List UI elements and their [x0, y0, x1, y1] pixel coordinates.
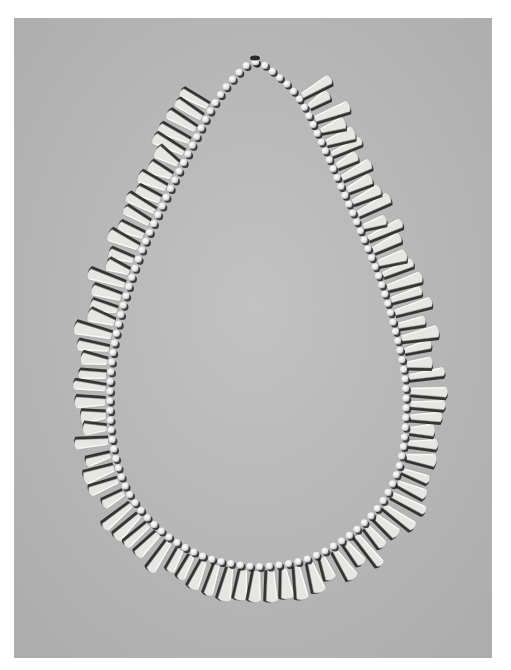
bead	[305, 112, 312, 119]
bead	[353, 218, 360, 225]
bead	[108, 426, 115, 433]
bead	[364, 245, 371, 252]
bead	[109, 436, 116, 443]
bead	[314, 130, 321, 137]
bead	[106, 407, 113, 414]
bead	[180, 159, 187, 166]
bead	[223, 83, 230, 90]
bead	[122, 292, 129, 299]
clasp-knot	[250, 56, 260, 61]
bead	[182, 544, 189, 551]
bead	[243, 62, 250, 69]
bead	[218, 558, 225, 565]
bead	[107, 368, 114, 375]
bead	[106, 397, 113, 404]
bead	[368, 254, 375, 261]
bead	[375, 272, 382, 279]
bead	[389, 480, 396, 487]
bead	[354, 526, 361, 533]
bead	[338, 537, 345, 544]
bead	[261, 62, 268, 69]
bead	[275, 561, 282, 568]
bead	[107, 417, 114, 424]
bead	[109, 349, 116, 356]
bead	[384, 300, 391, 307]
bead	[106, 388, 113, 395]
bead	[120, 302, 127, 309]
bead	[165, 534, 172, 541]
bead	[393, 471, 400, 478]
bead	[125, 283, 132, 290]
bead	[122, 483, 129, 490]
bead	[128, 274, 135, 281]
bead	[256, 563, 263, 570]
bead	[118, 474, 125, 481]
bead	[378, 281, 385, 288]
bead	[346, 532, 353, 539]
bead	[126, 491, 133, 498]
bead	[158, 528, 165, 535]
bead	[333, 174, 340, 181]
bead	[402, 395, 409, 402]
bead	[137, 507, 144, 514]
bead	[301, 104, 308, 111]
bead	[349, 210, 356, 217]
bead	[193, 133, 200, 140]
bead	[217, 91, 224, 98]
bead	[401, 434, 408, 441]
bead	[401, 375, 408, 382]
bead	[266, 563, 273, 570]
bead	[385, 489, 392, 496]
bead	[322, 147, 329, 154]
bead	[138, 247, 145, 254]
bead	[246, 563, 253, 570]
bead	[367, 512, 374, 519]
bead	[318, 139, 325, 146]
bead	[402, 404, 409, 411]
bead	[398, 356, 405, 363]
bead	[326, 156, 333, 163]
bead	[285, 560, 292, 567]
bead	[236, 69, 243, 76]
bead	[402, 424, 409, 431]
bead	[341, 192, 348, 199]
bead	[150, 220, 157, 227]
bead	[304, 555, 311, 562]
bead	[227, 560, 234, 567]
bead	[337, 183, 344, 190]
bead	[199, 553, 206, 560]
bead	[146, 229, 153, 236]
bead	[198, 125, 205, 132]
bead	[207, 107, 214, 114]
bead	[159, 203, 166, 210]
bead	[151, 521, 158, 528]
bead	[361, 236, 368, 243]
bead	[290, 88, 297, 95]
bead	[189, 142, 196, 149]
bead	[229, 76, 236, 83]
bead	[142, 238, 149, 245]
bead	[112, 455, 119, 462]
bead	[402, 385, 409, 392]
bead	[131, 265, 138, 272]
bead	[212, 99, 219, 106]
bead	[132, 499, 139, 506]
bead	[374, 505, 381, 512]
bead	[184, 151, 191, 158]
bead	[283, 81, 290, 88]
bead	[313, 552, 320, 559]
bead	[144, 514, 151, 521]
necklace-photograph	[14, 18, 492, 658]
bead	[392, 328, 399, 335]
bead	[321, 547, 328, 554]
bead	[154, 211, 161, 218]
bead	[110, 446, 117, 453]
bead	[115, 464, 122, 471]
bead	[345, 201, 352, 208]
bead	[402, 414, 409, 421]
bead	[167, 185, 174, 192]
bead	[389, 319, 396, 326]
bead	[310, 121, 317, 128]
bead	[208, 556, 215, 563]
bead	[387, 309, 394, 316]
